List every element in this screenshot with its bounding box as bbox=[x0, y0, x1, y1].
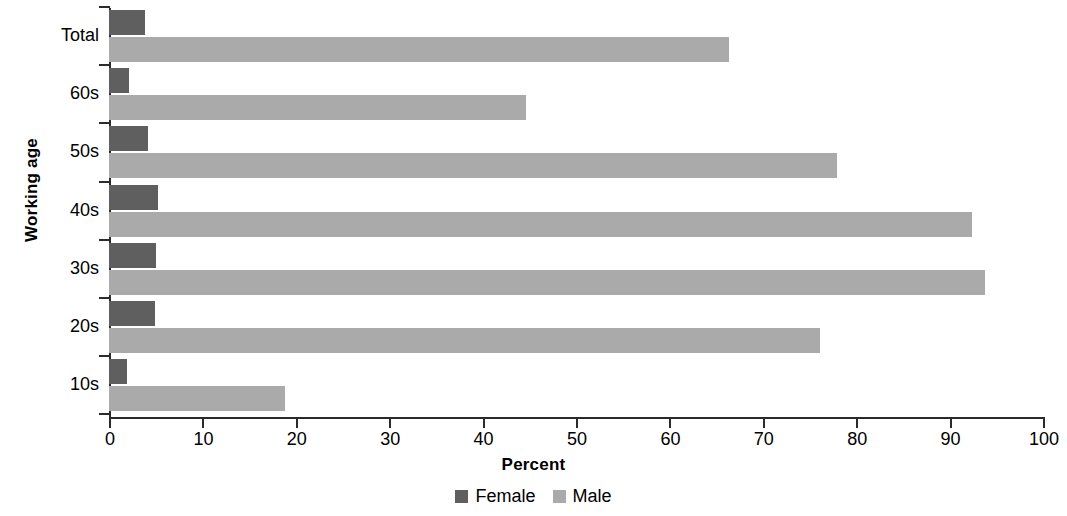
y-tick-label-total: Total bbox=[0, 25, 99, 46]
y-tick-label-40s: 40s bbox=[0, 200, 99, 221]
x-tick-mark bbox=[576, 419, 578, 428]
y-tick-label-30s: 30s bbox=[0, 258, 99, 279]
bar-male-60s bbox=[109, 95, 526, 120]
legend-label: Female bbox=[475, 487, 535, 505]
x-tick-mark bbox=[389, 419, 391, 428]
y-tick-mark bbox=[99, 122, 110, 124]
y-tick-mark bbox=[99, 297, 110, 299]
bar-female-30s bbox=[109, 243, 156, 268]
legend-label: Male bbox=[573, 487, 612, 505]
y-tick-label-60s: 60s bbox=[0, 83, 99, 104]
y-tick-mark bbox=[99, 181, 110, 183]
x-tick-mark bbox=[296, 419, 298, 428]
x-axis-title: Percent bbox=[0, 455, 1067, 475]
y-tick-mark bbox=[99, 413, 110, 415]
x-tick-label-80: 80 bbox=[827, 429, 887, 450]
x-tick-mark bbox=[856, 419, 858, 428]
legend-item-female: Female bbox=[455, 487, 535, 505]
y-tick-mark bbox=[99, 355, 110, 357]
x-tick-mark bbox=[109, 419, 111, 428]
legend-swatch-icon bbox=[553, 490, 566, 503]
x-tick-label-30: 30 bbox=[360, 429, 420, 450]
legend-swatch-icon bbox=[455, 490, 468, 503]
x-tick-label-0: 0 bbox=[80, 429, 140, 450]
x-tick-label-90: 90 bbox=[921, 429, 981, 450]
bar-female-20s bbox=[109, 301, 155, 326]
x-tick-mark bbox=[1043, 419, 1045, 428]
y-tick-label-10s: 10s bbox=[0, 374, 99, 395]
bar-male-30s bbox=[109, 270, 985, 295]
y-tick-mark bbox=[99, 64, 110, 66]
bar-female-total bbox=[109, 10, 145, 35]
y-tick-label-50s: 50s bbox=[0, 141, 99, 162]
x-tick-label-10: 10 bbox=[173, 429, 233, 450]
x-tick-mark bbox=[202, 419, 204, 428]
x-tick-mark bbox=[950, 419, 952, 428]
x-tick-label-100: 100 bbox=[1014, 429, 1067, 450]
legend-item-male: Male bbox=[553, 487, 612, 505]
y-tick-mark bbox=[99, 239, 110, 241]
x-tick-mark bbox=[669, 419, 671, 428]
x-tick-label-70: 70 bbox=[734, 429, 794, 450]
y-tick-label-20s: 20s bbox=[0, 316, 99, 337]
bar-chart: Working age Total60s50s40s30s20s10s 0102… bbox=[0, 0, 1067, 516]
x-tick-mark bbox=[483, 419, 485, 428]
bar-male-total bbox=[109, 37, 729, 62]
bar-female-40s bbox=[109, 185, 158, 210]
x-tick-mark bbox=[763, 419, 765, 428]
x-tick-label-20: 20 bbox=[267, 429, 327, 450]
bar-female-10s bbox=[109, 359, 127, 384]
chart-legend: FemaleMale bbox=[0, 487, 1067, 505]
bar-male-50s bbox=[109, 153, 837, 178]
bar-male-20s bbox=[109, 328, 820, 353]
x-tick-label-60: 60 bbox=[640, 429, 700, 450]
bar-female-60s bbox=[109, 68, 129, 93]
x-tick-label-50: 50 bbox=[547, 429, 607, 450]
y-tick-mark bbox=[99, 6, 110, 8]
x-tick-label-40: 40 bbox=[454, 429, 514, 450]
bar-male-10s bbox=[109, 386, 285, 411]
bar-female-50s bbox=[109, 126, 148, 151]
bar-male-40s bbox=[109, 212, 972, 237]
